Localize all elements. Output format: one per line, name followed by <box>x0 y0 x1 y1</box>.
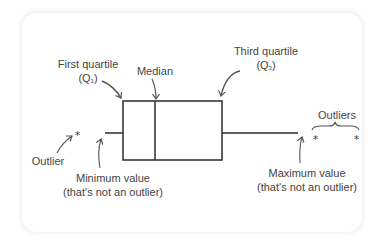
first-quartile-symbol: (Q1) <box>52 71 124 88</box>
outlier-marker-high-1: * <box>313 134 318 145</box>
outliers-brace <box>312 122 359 130</box>
arrow-minimum <box>99 139 101 168</box>
label-third-quartile: Third quartile (Q3) <box>226 44 306 75</box>
outlier-marker-high-2: * <box>354 134 359 145</box>
label-minimum-value: Minimum value (that's not an outlier) <box>58 171 168 199</box>
first-quartile-title: First quartile <box>52 57 124 71</box>
label-outliers: Outliers <box>315 108 359 122</box>
arrow-median <box>152 79 156 99</box>
outlier-marker-low: * <box>75 130 80 141</box>
box-plot-diagram: * * * <box>0 0 386 244</box>
arrow-maximum <box>300 137 302 163</box>
label-median: Median <box>133 64 177 78</box>
third-quartile-title: Third quartile <box>226 44 306 58</box>
label-outlier: Outlier <box>28 154 68 168</box>
box <box>123 101 222 160</box>
label-maximum-value: Maximum value (that's not an outlier) <box>252 166 362 194</box>
arrow-outlier <box>57 136 72 153</box>
third-quartile-symbol: (Q3) <box>226 58 306 75</box>
label-first-quartile: First quartile (Q1) <box>52 57 124 88</box>
